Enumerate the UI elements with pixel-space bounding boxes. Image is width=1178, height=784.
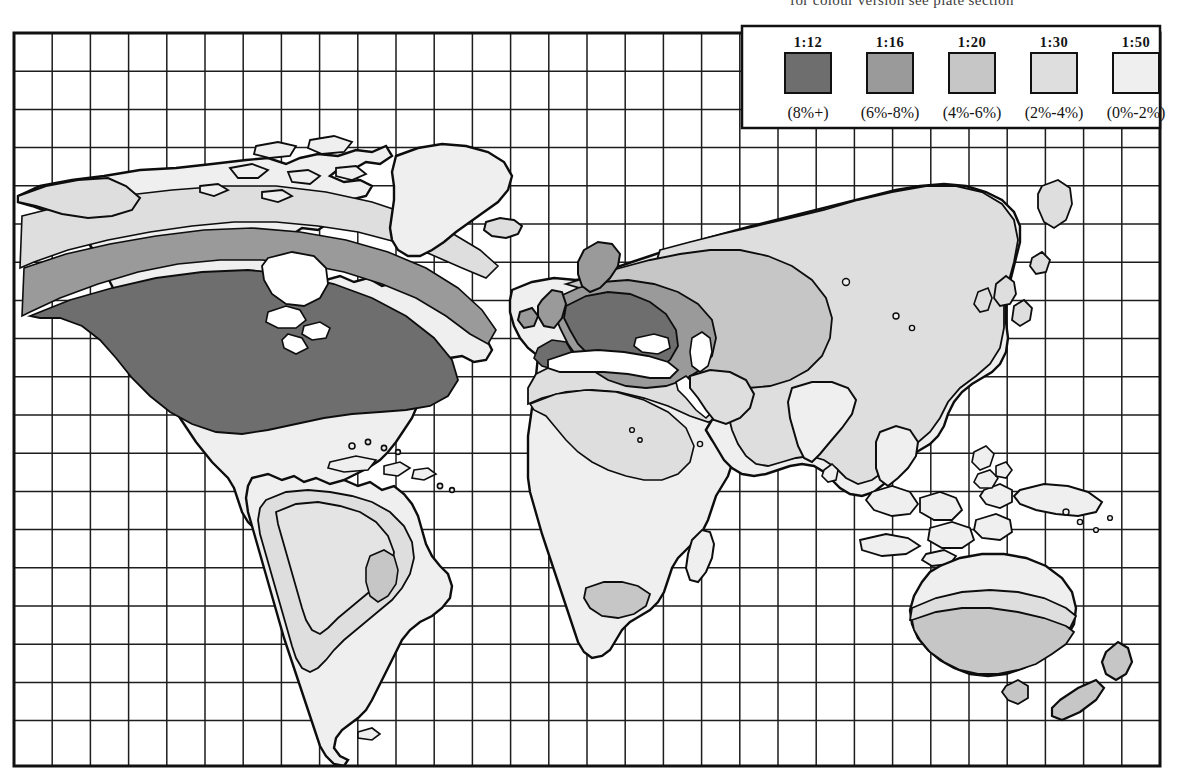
legend-swatch [1113,53,1159,93]
shading-legend: 1:12(8%+)1:16(6%-8%)1:20(4%-6%)1:30(2%-4… [742,26,1165,128]
world-map: 1:12(8%+)1:16(6%-8%)1:20(4%-6%)1:30(2%-4… [0,0,1178,784]
legend-range-label: (6%-8%) [861,104,920,122]
legend-swatch [785,53,831,93]
black-sea [634,334,670,354]
region-iceland [484,218,522,238]
map-figure: for colour version see plate section [0,0,1178,784]
legend-swatch [867,53,913,93]
legend-range-label: (8%+) [787,104,828,122]
legend-range-label: (2%-4%) [1025,104,1084,122]
legend-swatch [1031,53,1077,93]
legend-ratio-label: 1:20 [958,34,987,50]
caspian-sea [690,332,712,372]
legend-swatch [949,53,995,93]
legend-ratio-label: 1:50 [1122,34,1151,50]
legend-range-label: (4%-6%) [943,104,1002,122]
legend-ratio-label: 1:16 [876,34,905,50]
legend-ratio-label: 1:30 [1040,34,1069,50]
legend-ratio-label: 1:12 [794,34,823,50]
legend-range-label: (0%-2%) [1107,104,1166,122]
